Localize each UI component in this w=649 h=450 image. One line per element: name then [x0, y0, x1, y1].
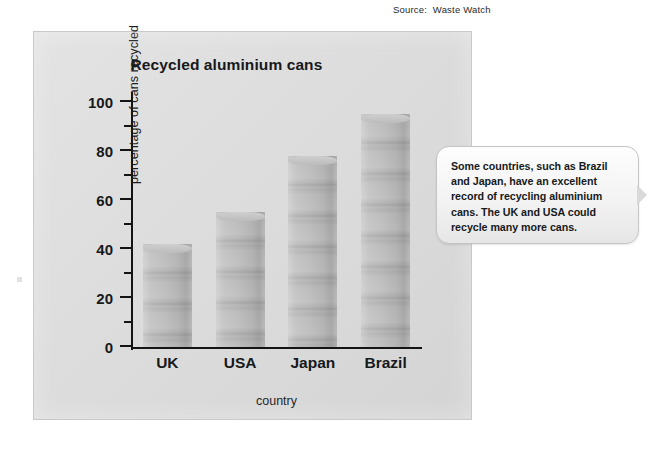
chart-panel: Recycled aluminium cans percentage of ca…: [33, 31, 472, 420]
y-tick-40: [120, 247, 131, 249]
can-stack-icon: [361, 114, 410, 347]
bar-brazil: [361, 114, 410, 347]
can-rim-icon: [288, 156, 337, 165]
plot-area: percentage of cans recycled 020406080100…: [131, 102, 426, 347]
callout-box: Some countries, such as Brazil and Japan…: [436, 146, 639, 244]
y-axis-tick-labels: 020406080100: [71, 102, 113, 347]
bar-japan: [288, 156, 337, 347]
chart-title: Recycled aluminium cans: [34, 56, 471, 74]
y-minor-tick-50: [124, 223, 131, 225]
y-tick-label-80: 80: [71, 143, 113, 160]
can-rim-icon: [143, 244, 192, 253]
bar-usa: [216, 212, 265, 347]
callout-tail-icon: [637, 185, 647, 205]
y-minor-tick-30: [124, 272, 131, 274]
y-tick-60: [120, 198, 131, 200]
x-axis-line: [131, 347, 422, 349]
y-tick-20: [120, 296, 131, 298]
y-tick-label-40: 40: [71, 241, 113, 258]
y-tick-label-100: 100: [71, 94, 113, 111]
y-minor-tick-10: [124, 321, 131, 323]
margin-artifact: [17, 277, 22, 282]
can-rim-icon: [361, 114, 410, 123]
y-minor-tick-90: [124, 125, 131, 127]
x-tick-label-brazil: Brazil: [346, 354, 426, 372]
x-axis-title: country: [131, 394, 422, 408]
y-tick-label-0: 0: [71, 339, 113, 356]
source-credit: Source: Waste Watch: [393, 4, 491, 15]
can-stack-icon: [288, 156, 337, 347]
x-tick-label-japan: Japan: [273, 354, 353, 372]
bar-uk: [143, 244, 192, 347]
can-stack-icon: [143, 244, 192, 347]
x-tick-label-usa: USA: [200, 354, 280, 372]
y-tick-0: [120, 345, 131, 347]
can-stack-icon: [216, 212, 265, 347]
y-tick-80: [120, 149, 131, 151]
y-tick-label-20: 20: [71, 290, 113, 307]
y-tick-label-60: 60: [71, 192, 113, 209]
x-tick-label-uk: UK: [127, 354, 207, 372]
y-tick-100: [120, 100, 131, 102]
can-rim-icon: [216, 212, 265, 221]
callout-text: Some countries, such as Brazil and Japan…: [451, 159, 622, 235]
y-axis-title: percentage of cans recycled: [127, 25, 141, 184]
y-minor-tick-70: [124, 174, 131, 176]
